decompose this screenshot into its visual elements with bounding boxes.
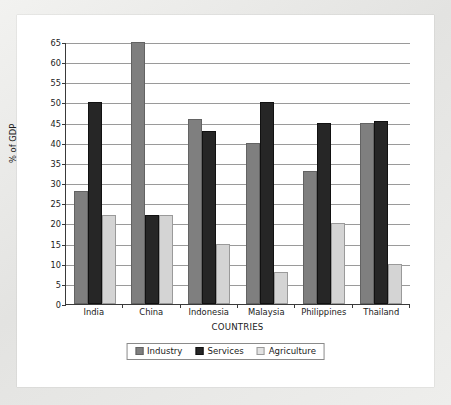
y-tick-label: 30 <box>37 180 61 188</box>
bar-services <box>260 102 274 304</box>
x-tick-label: India <box>65 308 123 322</box>
x-tick-label: Philippines <box>295 308 353 322</box>
bar-industry <box>360 123 374 304</box>
y-tick-label: 0 <box>37 301 61 309</box>
bar-group <box>123 43 180 304</box>
y-tick-label: 60 <box>37 59 61 67</box>
y-tick-label: 5 <box>37 281 61 289</box>
y-tick-label: 65 <box>37 39 61 47</box>
bar-group <box>238 43 295 304</box>
y-tick-label: 25 <box>37 200 61 208</box>
bar-industry <box>246 143 260 304</box>
legend-item[interactable]: Industry <box>135 347 182 356</box>
plot-area <box>65 43 410 305</box>
legend-swatch-agriculture-icon <box>257 347 265 355</box>
legend-item[interactable]: Agriculture <box>257 347 316 356</box>
bar-group <box>181 43 238 304</box>
y-tick-label: 40 <box>37 140 61 148</box>
legend-label: Agriculture <box>269 347 316 356</box>
bar-industry <box>188 119 202 304</box>
bar-agriculture <box>102 215 116 304</box>
x-axis-title: COUNTRIES <box>65 322 410 332</box>
page-frame: % of GDP 05101520253035404550556065 Indi… <box>0 0 451 405</box>
bar-group <box>66 43 123 304</box>
y-axis-tick-labels: 05101520253035404550556065 <box>37 43 61 305</box>
y-axis-title: % of GDP <box>8 124 18 163</box>
bar-group <box>295 43 352 304</box>
y-tick-label: 50 <box>37 99 61 107</box>
legend-label: Services <box>207 347 243 356</box>
legend-label: Industry <box>147 347 182 356</box>
legend-swatch-services-icon <box>195 347 203 355</box>
chart-canvas: % of GDP 05101520253035404550556065 Indi… <box>17 15 434 387</box>
legend-item[interactable]: Services <box>195 347 243 356</box>
y-tick-label: 55 <box>37 79 61 87</box>
bar-agriculture <box>216 244 230 304</box>
bar-industry <box>131 42 145 304</box>
chart-legend: IndustryServicesAgriculture <box>126 343 325 360</box>
y-tick-label: 15 <box>37 241 61 249</box>
bar-group <box>353 43 410 304</box>
y-tick-label: 10 <box>37 261 61 269</box>
legend-swatch-industry-icon <box>135 347 143 355</box>
bar-agriculture <box>274 272 288 304</box>
x-tick-label: Thailand <box>353 308 411 322</box>
bar-industry <box>303 171 317 304</box>
y-tick-mark <box>62 305 66 306</box>
y-tick-label: 20 <box>37 220 61 228</box>
y-tick-label: 45 <box>37 120 61 128</box>
bar-agriculture <box>331 223 345 304</box>
y-tick-label: 35 <box>37 160 61 168</box>
x-tick-label: Indonesia <box>180 308 238 322</box>
x-tick-label: China <box>123 308 181 322</box>
bar-services <box>374 121 388 304</box>
bar-groups <box>66 43 410 304</box>
bar-agriculture <box>388 264 402 304</box>
bar-agriculture <box>159 215 173 304</box>
bar-services <box>202 131 216 304</box>
x-tick-label: Malaysia <box>238 308 296 322</box>
bar-services <box>88 102 102 304</box>
x-axis-tick-labels: IndiaChinaIndonesiaMalaysiaPhilippinesTh… <box>65 308 410 322</box>
bar-services <box>145 215 159 304</box>
bar-industry <box>74 191 88 304</box>
bar-services <box>317 123 331 304</box>
